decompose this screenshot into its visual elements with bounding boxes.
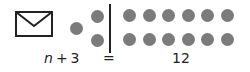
dot (143, 33, 156, 46)
dot (162, 33, 175, 46)
addend-label: 3 (71, 51, 80, 66)
dot (143, 9, 156, 22)
dot (123, 33, 136, 46)
dot (70, 22, 83, 35)
equation-diagram: n + 3 = 12 (0, 0, 250, 72)
dot (201, 33, 214, 46)
divider-line (109, 4, 111, 53)
dot (201, 9, 214, 22)
equals-sign: = (103, 51, 115, 66)
dot (162, 9, 175, 22)
addend-dot-group (70, 9, 104, 47)
dot (123, 9, 136, 22)
dot (182, 9, 195, 22)
dot (221, 9, 234, 22)
result-label: 12 (172, 51, 190, 66)
dot (91, 34, 104, 47)
dot (221, 33, 234, 46)
result-dot-grid (123, 9, 234, 46)
variable-label: n (44, 51, 53, 66)
dot (91, 10, 104, 23)
dot (182, 33, 195, 46)
plus-operator: + (56, 51, 68, 66)
envelope-icon (15, 11, 53, 37)
expression-label: n + 3 (44, 51, 80, 66)
